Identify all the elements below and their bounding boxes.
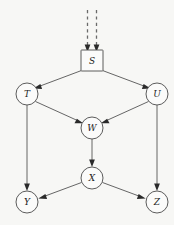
edge-u-to-w — [106, 102, 149, 122]
node-t[interactable]: T — [16, 83, 38, 105]
node-z[interactable]: Z — [146, 191, 168, 213]
edge-t-to-w — [36, 102, 79, 122]
edge-w-to-x-arrowhead — [89, 159, 95, 167]
node-y-label: Y — [24, 197, 31, 207]
graph-svg: S T U W X — [0, 0, 174, 225]
node-s-label: S — [89, 56, 95, 66]
dashed-edge-group — [85, 10, 100, 52]
node-group: S T U W X — [16, 50, 168, 213]
node-y[interactable]: Y — [16, 191, 38, 213]
edge-t-to-y-arrowhead — [24, 183, 30, 191]
node-x[interactable]: X — [81, 167, 103, 189]
node-x-label: X — [88, 173, 96, 183]
node-w-label: W — [87, 123, 97, 133]
node-w[interactable]: W — [81, 117, 103, 139]
node-u[interactable]: U — [146, 83, 168, 105]
edge-s-to-u — [103, 71, 147, 87]
node-s[interactable]: S — [81, 50, 103, 71]
node-t-label: T — [24, 89, 31, 99]
edge-x-to-y — [43, 183, 82, 197]
node-z-label: Z — [153, 197, 161, 207]
edge-u-to-z-arrowhead — [154, 183, 160, 191]
node-u-label: U — [153, 89, 161, 99]
edge-x-to-y-arrowhead — [38, 194, 47, 199]
edge-x-to-z-arrowhead — [137, 194, 146, 199]
edge-x-to-z — [103, 183, 142, 197]
edge-s-to-t — [38, 71, 82, 87]
diagram-canvas: S T U W X — [0, 0, 174, 225]
